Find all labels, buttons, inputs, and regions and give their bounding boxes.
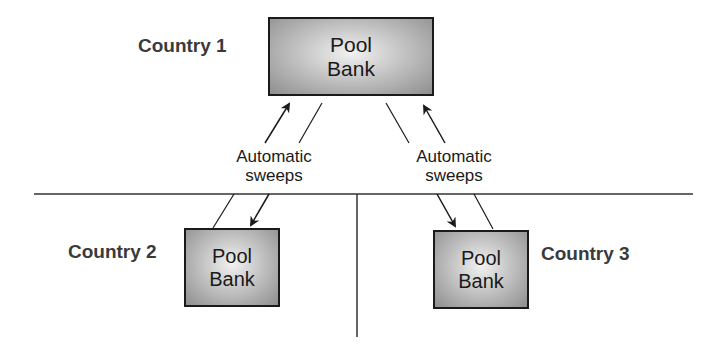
sweep-right-line-1: Automatic xyxy=(399,148,509,167)
country-1-label: Country 1 xyxy=(138,35,227,57)
pool-bank-1-line-1: Pool xyxy=(330,33,372,57)
pool-bank-3-line-1: Pool xyxy=(461,247,501,269)
arrow-down-to-pool-bank-2 xyxy=(251,194,269,225)
line-up-from-pool-bank-3 xyxy=(474,194,493,229)
pool-bank-1-line-2: Bank xyxy=(327,57,375,81)
automatic-sweeps-left-label: Automatic sweeps xyxy=(219,148,329,185)
arrow-up-to-pool-bank-1-left xyxy=(265,104,289,143)
sweep-right-line-2: sweeps xyxy=(399,167,509,186)
pool-bank-3-line-2: Bank xyxy=(458,270,504,292)
country-3-label: Country 3 xyxy=(541,243,630,265)
pool-bank-country-3: Pool Bank xyxy=(433,230,529,309)
sweep-left-line-1: Automatic xyxy=(219,148,329,167)
arrow-up-to-pool-bank-1-right xyxy=(424,106,445,143)
cash-pool-diagram: Country 1 Pool Bank Automatic sweeps Aut… xyxy=(0,0,727,355)
pool-bank-2-line-1: Pool xyxy=(212,245,252,267)
pool-bank-country-1: Pool Bank xyxy=(268,17,434,96)
pool-bank-country-2: Pool Bank xyxy=(184,228,280,307)
line-down-from-pool-bank-1-left xyxy=(299,103,322,143)
sweep-left-line-2: sweeps xyxy=(219,167,329,186)
line-down-from-pool-bank-1-right xyxy=(386,103,409,143)
country-2-label: Country 2 xyxy=(68,241,157,263)
pool-bank-2-line-2: Bank xyxy=(209,268,255,290)
arrow-down-to-pool-bank-3 xyxy=(437,194,455,226)
automatic-sweeps-right-label: Automatic sweeps xyxy=(399,148,509,185)
line-up-from-pool-bank-2 xyxy=(213,194,234,228)
